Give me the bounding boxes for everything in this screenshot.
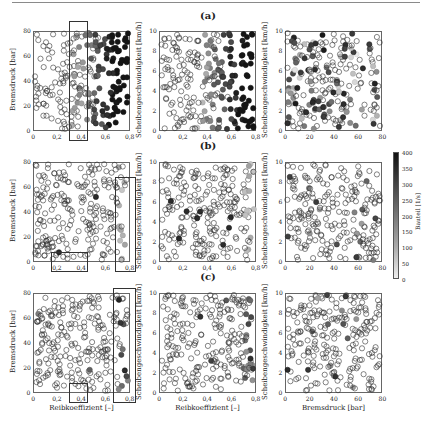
x-tick-label: 20	[306, 265, 314, 271]
colorbar-label: Bauteil [1/s]	[414, 193, 421, 230]
y-axis-label: Bremsdruck [bar]	[9, 179, 17, 242]
x-tick-label: 0	[31, 134, 35, 140]
y-tick-label: 2	[279, 370, 283, 376]
x-tick-label: 0,8	[125, 134, 135, 140]
scatter-points	[159, 162, 256, 262]
y-tick-label: 40	[23, 209, 31, 215]
x-tick-label: 80	[379, 265, 387, 271]
x-tick-label: 0,8	[125, 265, 135, 271]
scatter-points	[159, 31, 256, 131]
row-label: (a)	[188, 10, 228, 21]
y-axis-label: Scheibengeschwindigkeit [km/h]	[135, 284, 143, 400]
y-tick-label: 60	[23, 184, 31, 190]
y-tick-label: 60	[23, 315, 31, 321]
x-tick-label: 0,8	[251, 265, 261, 271]
y-axis-label: Scheibengeschwindigkeit [km/h]	[135, 22, 143, 138]
y-tick-label: 80	[23, 159, 31, 165]
x-tick-label: 0	[283, 265, 287, 271]
y-axis-label: Scheibengeschwindigkeit [km/h]	[261, 153, 269, 269]
y-tick-label: 4	[279, 350, 283, 356]
x-tick-label: 0,2	[52, 134, 62, 140]
y-tick-label: 20	[23, 234, 31, 240]
y-tick-label: 10	[275, 28, 283, 34]
colorbar-tick-label: 150	[402, 229, 413, 235]
scatter-points	[285, 31, 382, 131]
x-tick-label: 60	[354, 396, 362, 402]
colorbar-tick-label: 250	[402, 198, 413, 204]
x-tick-label: 0,4	[202, 134, 212, 140]
y-tick-label: 6	[153, 68, 157, 74]
y-tick-label: 10	[149, 159, 157, 165]
y-tick-label: 10	[275, 159, 283, 165]
x-tick-label: 0,6	[101, 134, 111, 140]
scatter-points	[285, 293, 382, 393]
y-tick-label: 6	[153, 330, 157, 336]
y-tick-label: 8	[153, 179, 157, 185]
x-tick-label: 0	[283, 134, 287, 140]
x-tick-label: 0	[283, 396, 287, 402]
y-tick-label: 6	[279, 330, 283, 336]
top-rule	[12, 2, 420, 3]
x-tick-label: 60	[354, 265, 362, 271]
x-tick-label: 0,4	[76, 265, 86, 271]
y-tick-label: 8	[153, 48, 157, 54]
y-tick-label: 10	[149, 290, 157, 296]
y-tick-label: 0	[153, 128, 157, 134]
y-axis-label: Bremsdruck [bar]	[9, 310, 17, 373]
x-tick-label: 0,8	[251, 396, 261, 402]
y-tick-label: 2	[279, 239, 283, 245]
x-tick-label: 0	[157, 396, 161, 402]
y-tick-label: 4	[153, 88, 157, 94]
y-tick-label: 80	[23, 28, 31, 34]
y-tick-label: 0	[27, 128, 31, 134]
x-tick-label: 80	[379, 134, 387, 140]
x-axis-label: Reibkoeffizient [–]	[159, 404, 256, 412]
y-tick-label: 0	[279, 259, 283, 265]
y-tick-label: 2	[153, 239, 157, 245]
colorbar-tick-label: 0	[402, 277, 406, 283]
x-axis-label: Reibkoeffizient [–]	[33, 404, 130, 412]
colorbar-tick-label: 200	[402, 214, 413, 220]
x-tick-label: 0,2	[52, 396, 62, 402]
x-tick-label: 0,8	[251, 134, 261, 140]
x-tick-label: 0,6	[227, 134, 237, 140]
y-tick-label: 0	[153, 390, 157, 396]
y-tick-label: 40	[23, 78, 31, 84]
x-tick-label: 40	[330, 396, 338, 402]
x-tick-label: 0,4	[202, 265, 212, 271]
y-axis-label: Scheibengeschwindigkeit [km/h]	[261, 284, 269, 400]
x-tick-label: 0	[31, 396, 35, 402]
y-tick-label: 4	[153, 219, 157, 225]
y-tick-label: 0	[27, 390, 31, 396]
colorbar-tick-label: 400	[402, 150, 413, 156]
x-tick-label: 0,6	[101, 396, 111, 402]
x-tick-label: 0,6	[227, 265, 237, 271]
colorbar-tick-label: 350	[402, 166, 413, 172]
y-tick-label: 8	[153, 310, 157, 316]
y-tick-label: 0	[279, 390, 283, 396]
y-tick-label: 20	[23, 103, 31, 109]
y-tick-label: 40	[23, 340, 31, 346]
y-tick-label: 4	[279, 88, 283, 94]
y-tick-label: 60	[23, 53, 31, 59]
y-tick-label: 2	[153, 108, 157, 114]
y-tick-label: 6	[279, 199, 283, 205]
x-tick-label: 0,2	[178, 265, 188, 271]
y-axis-label: Scheibengeschwindigkeit [km/h]	[135, 153, 143, 269]
x-tick-label: 0,4	[76, 396, 86, 402]
y-tick-label: 10	[149, 28, 157, 34]
y-tick-label: 0	[279, 128, 283, 134]
y-tick-label: 0	[27, 259, 31, 265]
x-tick-label: 0,2	[178, 396, 188, 402]
x-tick-label: 20	[306, 396, 314, 402]
highlight-box	[113, 288, 136, 403]
highlight-box	[69, 21, 87, 141]
y-tick-label: 4	[279, 219, 283, 225]
y-tick-label: 4	[153, 350, 157, 356]
x-tick-label: 80	[379, 396, 387, 402]
x-tick-label: 40	[330, 265, 338, 271]
x-axis-label: Bremsdruck [bar]	[285, 404, 382, 412]
y-axis-label: Scheibengeschwindigkeit [km/h]	[261, 22, 269, 138]
x-tick-label: 40	[330, 134, 338, 140]
colorbar-tick-label: 50	[402, 261, 409, 267]
